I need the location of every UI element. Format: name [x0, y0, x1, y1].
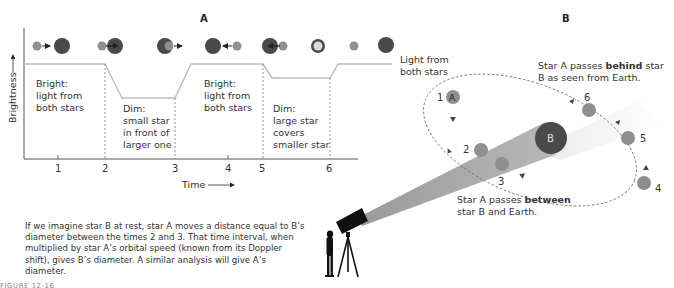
y-axis-label-group: Brightness [7, 55, 18, 123]
star-a-position-5 [621, 131, 635, 145]
stars-position-1-icon [33, 38, 71, 54]
explanation-caption: If we imagine star B at rest, star A mov… [25, 221, 305, 277]
between-caption-line2: star B and Earth. [457, 206, 537, 217]
behind-caption-line1: Star A passes behind star [538, 60, 664, 71]
behind-caption-line2: B as seen from Earth. [538, 72, 641, 83]
light-from-both-label-2: both stars [400, 66, 448, 77]
panel-a-label: A [200, 13, 208, 24]
svg-text:light from: light from [204, 90, 250, 101]
region-dim-1: Dim: small star in front of larger one [123, 103, 172, 150]
svg-text:smaller star: smaller star [273, 139, 330, 150]
region-bright-2: Bright: light from both stars [204, 78, 252, 113]
stars-position-6-icon [311, 39, 325, 53]
tick-3: 3 [172, 163, 178, 174]
stars-position-3-icon [157, 38, 182, 54]
stars-position-2-icon [98, 38, 124, 54]
light-from-both-label-1: Light from [400, 54, 449, 65]
position-label-3: 3 [498, 176, 504, 187]
figure-label: FIGURE 12-16 [0, 282, 55, 288]
eclipse-sequence [33, 38, 359, 54]
svg-text:light from: light from [36, 90, 82, 101]
star-b-label: B [547, 133, 554, 144]
svg-text:both stars: both stars [36, 102, 84, 113]
y-axis-label: Brightness [7, 72, 18, 123]
position-label-1: 1 [437, 92, 443, 103]
star-a-label: A [449, 93, 456, 103]
region-bright-1: Bright: light from both stars [36, 78, 84, 113]
svg-text:Dim:: Dim: [273, 103, 295, 114]
svg-text:Dim:: Dim: [123, 103, 145, 114]
x-axis-label: Time [181, 179, 205, 190]
position-label-4: 4 [655, 183, 661, 194]
between-caption-line1: Star A passes between [457, 194, 571, 205]
star-a-position-2 [474, 143, 488, 157]
stars-position-7-icon [350, 42, 359, 51]
tick-2: 2 [102, 163, 108, 174]
observer-silhouette-icon [325, 230, 334, 277]
svg-text:small star: small star [123, 115, 170, 126]
stars-position-5-icon [262, 38, 288, 54]
position-label-5: 5 [640, 133, 646, 144]
svg-text:Bright:: Bright: [36, 78, 68, 89]
tick-1: 1 [55, 163, 61, 174]
stars-position-4-icon [205, 38, 242, 54]
star-a-position-6 [582, 103, 596, 117]
star-a-position-4 [637, 176, 651, 190]
svg-text:covers: covers [273, 127, 304, 138]
tick-5: 5 [259, 163, 265, 174]
svg-text:Bright:: Bright: [204, 78, 236, 89]
telescope-icon [336, 208, 368, 277]
svg-text:larger one: larger one [123, 139, 172, 150]
position-label-6: 6 [584, 92, 590, 103]
region-dim-2: Dim: large star covers smaller star [273, 103, 330, 150]
tick-6: 6 [326, 163, 332, 174]
large-star-icon [378, 37, 394, 53]
svg-text:both stars: both stars [204, 102, 252, 113]
svg-text:large star: large star [273, 115, 319, 126]
panel-b-label: B [562, 13, 570, 24]
svg-text:in front of: in front of [123, 127, 170, 138]
position-label-2: 2 [463, 144, 469, 155]
star-a-position-3 [495, 157, 509, 171]
tick-4: 4 [225, 163, 231, 174]
